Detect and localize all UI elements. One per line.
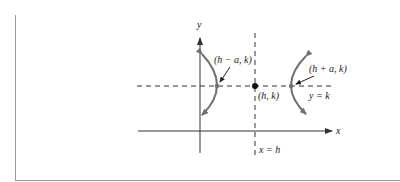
y-equals-k-label: y = k	[308, 90, 330, 101]
center-label: (h, k)	[258, 90, 280, 102]
pointer-left-vertex	[220, 67, 230, 82]
left-vertex-label: (h − a, k)	[214, 54, 253, 66]
right-vertex-label: (h + a, k)	[309, 63, 348, 75]
hyperbola-diagram: y x (h − a, k) (h + a, k) (h, k) y = k x…	[0, 0, 400, 182]
y-axis-label: y	[196, 19, 202, 30]
vertex-left	[215, 84, 219, 88]
vertex-right	[289, 84, 293, 88]
center-point	[252, 83, 258, 89]
x-axis-label: x	[335, 125, 341, 136]
x-equals-h-label: x = h	[258, 144, 280, 155]
pointer-right-vertex	[296, 76, 314, 84]
hyperbola-right-branch	[291, 56, 306, 114]
